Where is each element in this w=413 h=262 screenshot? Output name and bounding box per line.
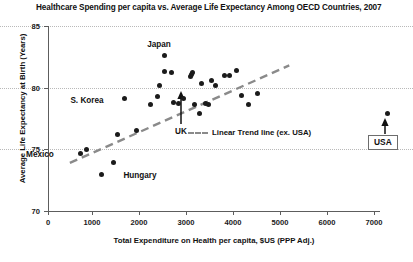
x-tick-label-1000: 1000	[84, 218, 101, 227]
data-point	[155, 94, 160, 99]
x-tick-label-7000: 7000	[366, 218, 383, 227]
data-point	[148, 102, 153, 107]
usa-label: USA	[374, 137, 392, 147]
x-tick-1000	[92, 211, 93, 215]
data-point	[84, 147, 89, 152]
data-point	[192, 102, 197, 107]
data-point	[111, 160, 116, 165]
data-point	[122, 96, 127, 101]
x-tick-0	[48, 211, 49, 215]
x-tick-3000	[186, 211, 187, 215]
legend-label-trend: Linear Trend line (ex. USA)	[212, 128, 311, 137]
x-tick-4000	[233, 211, 234, 215]
data-point	[206, 102, 211, 107]
linear-trend-line	[70, 65, 289, 162]
x-tick-label-0: 0	[46, 218, 50, 227]
data-point	[199, 81, 204, 86]
data-point	[234, 68, 239, 73]
data-point	[255, 91, 260, 96]
mexico-label: Mexico	[26, 150, 54, 159]
x-tick-2000	[139, 211, 140, 215]
y-tick-label-70: 70	[14, 207, 40, 216]
x-axis-line	[48, 211, 380, 212]
y-axis-title: Average Life Expectancy at Birth (Years)	[18, 34, 27, 184]
skorea-label: S. Korea	[70, 96, 103, 105]
data-point	[99, 172, 104, 177]
hungary-label: Hungary	[123, 171, 156, 180]
x-axis-title: Total Expenditure on Health per capita, …	[48, 236, 380, 245]
x-tick-6000	[327, 211, 328, 215]
japan-label: Japan	[147, 40, 171, 49]
chart-legend: Linear Trend line (ex. USA)	[188, 128, 311, 137]
x-tick-label-6000: 6000	[319, 218, 336, 227]
gridline-75	[0, 149, 413, 150]
y-tick-label-85: 85	[14, 22, 40, 31]
data-point	[385, 111, 390, 116]
uk-label: UK	[175, 127, 187, 136]
gridline-85	[0, 26, 413, 27]
usa-callout-box: USA	[368, 135, 398, 150]
data-point	[213, 83, 218, 88]
x-tick-7000	[374, 211, 375, 215]
x-tick-label-5000: 5000	[272, 218, 289, 227]
gridline-80	[0, 88, 413, 89]
data-point	[162, 53, 167, 58]
data-point	[162, 69, 167, 74]
y-axis-line	[48, 26, 49, 212]
data-point	[78, 151, 83, 156]
x-tick-label-3000: 3000	[178, 218, 195, 227]
data-point	[239, 93, 244, 98]
data-point	[134, 128, 139, 133]
data-point	[176, 101, 181, 106]
data-point	[181, 96, 186, 101]
y-tick-85	[44, 26, 48, 27]
y-tick-80	[44, 88, 48, 89]
data-point	[246, 102, 251, 107]
usa-arrow	[381, 118, 388, 134]
data-point	[190, 70, 195, 75]
scatter-chart: Healthcare Spending per capita vs. Avera…	[0, 0, 413, 262]
x-tick-label-4000: 4000	[225, 218, 242, 227]
data-point	[157, 83, 162, 88]
data-point	[197, 111, 202, 116]
data-point	[227, 73, 232, 78]
data-point	[115, 132, 120, 137]
chart-title: Healthcare Spending per capita vs. Avera…	[36, 3, 408, 12]
trend-line-swatch	[188, 132, 208, 134]
x-tick-label-2000: 2000	[131, 218, 148, 227]
data-point	[169, 70, 174, 75]
x-tick-5000	[280, 211, 281, 215]
data-point	[209, 78, 214, 83]
